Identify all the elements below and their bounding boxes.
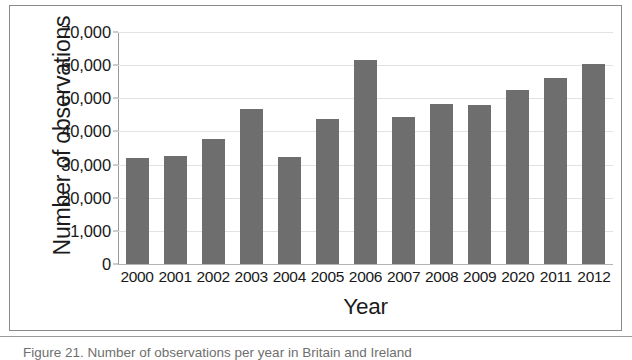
x-tick-label: 2020 bbox=[501, 268, 534, 286]
bar-series bbox=[118, 32, 613, 264]
x-tick-label: 2006 bbox=[349, 268, 382, 286]
chart-frame: Number of observations 01,00020,00030,00… bbox=[9, 5, 622, 331]
x-tick-label: 2000 bbox=[120, 268, 153, 286]
plot-area: 01,00020,00030,00040,00050,00060,00070,0… bbox=[118, 32, 613, 264]
x-tick-label: 2003 bbox=[235, 268, 268, 286]
figure-caption: Figure 21. Number of observations per ye… bbox=[23, 345, 613, 360]
x-axis-title: Year bbox=[118, 294, 613, 320]
y-tick-label: 70,000 bbox=[61, 23, 111, 42]
bar bbox=[164, 156, 187, 264]
bar bbox=[316, 119, 339, 264]
bar bbox=[468, 105, 491, 264]
x-tick-label: 2001 bbox=[158, 268, 191, 286]
y-tick-label: 1,000 bbox=[70, 221, 111, 240]
y-tick-label: 30,000 bbox=[61, 155, 111, 174]
x-tick-label: 2007 bbox=[387, 268, 420, 286]
bar bbox=[126, 158, 149, 264]
bar bbox=[506, 90, 529, 264]
x-tick-label: 2005 bbox=[311, 268, 344, 286]
y-tick-label: 0 bbox=[102, 255, 111, 274]
x-tick-label: 2002 bbox=[197, 268, 230, 286]
gridline bbox=[118, 264, 613, 265]
x-tick-label: 2012 bbox=[577, 268, 610, 286]
y-tick-label: 50,000 bbox=[61, 89, 111, 108]
x-tick-label: 2009 bbox=[463, 268, 496, 286]
x-tick-label: 2008 bbox=[425, 268, 458, 286]
y-tick-label: 60,000 bbox=[61, 56, 111, 75]
bar bbox=[202, 139, 225, 264]
bar bbox=[582, 64, 605, 265]
y-tick-label: 40,000 bbox=[61, 122, 111, 141]
x-tick-label: 2004 bbox=[273, 268, 306, 286]
bar bbox=[392, 117, 415, 264]
chart-canvas: Number of observations 01,00020,00030,00… bbox=[10, 6, 623, 332]
bar bbox=[354, 60, 377, 264]
y-tick-label: 20,000 bbox=[61, 188, 111, 207]
figure-caption-strip: Figure 21. Number of observations per ye… bbox=[0, 336, 632, 360]
bar bbox=[544, 78, 567, 264]
bar bbox=[430, 104, 453, 264]
bar bbox=[240, 109, 263, 264]
bar bbox=[278, 157, 301, 264]
x-axis-tick-labels: 2000200120022003200420052006200720082009… bbox=[118, 268, 613, 292]
x-tick-label: 2011 bbox=[540, 268, 572, 286]
